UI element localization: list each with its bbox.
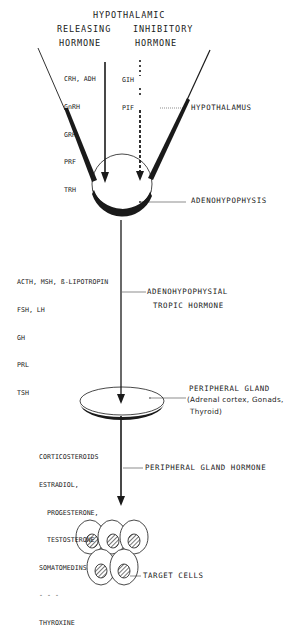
peripheral-hormone-item: SOMATOMEDINS [39,564,99,573]
releasing-hormone-item: TRH [64,186,96,195]
inhibitory-hormone-item: GIH [122,76,134,85]
peripheral-gland-detail-line1: (Adrenal cortex, Gonads, [187,396,284,403]
hypothalamic-title: HYPOTHALAMIC [93,11,165,20]
tropic-hormone-list: ACTH, MSH, ß-LIPOTROPIN FSH, LH GH PRL T… [17,260,108,407]
inhibitory-hormone-item: PIF [122,104,134,113]
adenohypophysis-label: ADENOHYPOPHYSIS [191,197,267,204]
tropic-hormone-item: GH [17,334,108,343]
releasing-hormone-item: GRH [64,131,96,140]
peripheral-gland-hormone-arrow [117,416,125,506]
tropic-hormone-label-line1: ADENOHYPOPHYSIAL [147,288,228,295]
peripheral-hormone-item: PROGESTERONE, [39,509,99,518]
releasing-hormone-list: CRH, ADH GnRH GRH PRF TRH [64,57,96,204]
releasing-hormone-item: GnRH [64,103,96,112]
releasing-label-line2: HORMONE [59,39,101,48]
hypothalamus-label: HYPOTHALAMUS [191,104,252,111]
tropic-hormone-item: PRL [17,361,108,370]
peripheral-gland-detail-line2: Thyroid) [190,408,222,415]
target-cells-label: TARGET CELLS [143,572,204,579]
peripheral-hormone-list: CORTICOSTEROIDS ESTRADIOL, PROGESTERONE,… [39,435,99,629]
releasing-label-line1: RELEASING [57,25,111,34]
tropic-hormone-item: TSH [17,389,108,398]
releasing-hormone-item: CRH, ADH [64,75,96,84]
peripheral-gland-label: PERIPHERAL GLAND [189,385,270,392]
inhibitory-label-line1: INHIBITORY [133,25,193,34]
releasing-hormone-arrow [101,62,109,183]
peripheral-hormone-item: CORTICOSTEROIDS [39,453,99,462]
tropic-hormone-item: ACTH, MSH, ß-LIPOTROPIN [17,278,108,287]
peripheral-hormone-item: - - - [39,591,99,600]
inhibitory-hormone-list: GIH PIF [122,58,134,122]
peripheral-hormone-item: THYROXINE [39,619,99,628]
inhibitory-label-line2: HORMONE [135,39,177,48]
peripheral-hormone-item: ESTRADIOL, [39,481,99,490]
tropic-hormone-arrow [117,220,125,404]
peripheral-hormone-item: TESTOSTERONE [39,536,99,545]
tropic-hormone-label-line2: TROPIC HORMONE [153,302,224,309]
adenohypophysis-circle [92,154,152,217]
peripheral-gland-hormone-label: PERIPHERAL GLAND HORMONE [145,464,266,471]
releasing-hormone-item: PRF [64,158,96,167]
tropic-hormone-item: FSH, LH [17,306,108,315]
